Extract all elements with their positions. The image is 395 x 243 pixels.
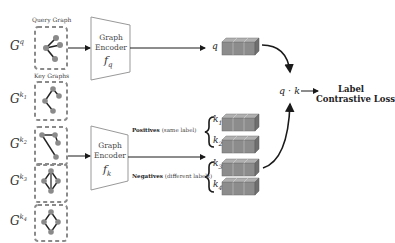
key-embedding-label-2: k2	[213, 136, 222, 147]
key-graphs-title: Key Graphs	[34, 73, 69, 79]
query-embedding-label: q	[212, 42, 218, 51]
similarity-expression: q · k	[279, 86, 300, 96]
query-graph-symbol: Gq	[10, 40, 24, 52]
key-graph-3-symbol: Gk3	[10, 175, 27, 187]
positives-label: Positives (same label)	[132, 128, 196, 134]
loss-label: Label Contrastive Loss	[316, 85, 386, 103]
key-graph-3-box	[35, 164, 67, 202]
key-embedding-cube-2	[222, 136, 259, 153]
query-graph-box	[35, 27, 67, 69]
key-encoder-label: Graph Encoder	[90, 141, 130, 161]
key-embedding-cube-1	[222, 114, 259, 131]
key-encoder-function: fk	[103, 164, 111, 178]
key-embedding-label-3: k3	[213, 159, 222, 170]
query-encoder-label: Graph Encoder	[91, 33, 131, 53]
key-graph-4-symbol: Gk4	[10, 215, 27, 227]
key-embedding-cube-4	[222, 178, 259, 195]
key-graph-1-symbol: Gk1	[10, 93, 27, 105]
query-embedding-cube	[222, 38, 259, 55]
negatives-label: Negatives (different labels)	[132, 174, 212, 180]
query-graph-title: Query Graph	[32, 17, 71, 23]
key-embedding-label-1: k1	[213, 115, 222, 126]
key-graph-4-box	[35, 205, 67, 241]
key-graph-2-symbol: Gk2	[10, 138, 27, 150]
key-graph-1-box	[35, 82, 67, 120]
query-encoder-function: fq	[104, 55, 113, 69]
key-embedding-cube-3	[222, 159, 259, 176]
key-graph-2-box	[35, 127, 67, 165]
key-embedding-label-4: k4	[213, 180, 222, 191]
